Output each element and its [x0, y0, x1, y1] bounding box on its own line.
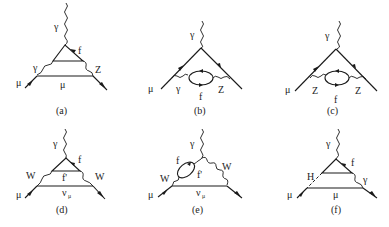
label-w: W [160, 173, 170, 184]
diagram-c: γ μ Z f Z (c) [285, 21, 377, 117]
label-f: f [334, 94, 338, 105]
photon-line [37, 61, 53, 75]
diagram-e: γ f f' W W ν μ μ (e) [148, 129, 242, 216]
label-nu: ν [196, 187, 201, 198]
label-nu: ν [62, 187, 67, 198]
label-z: Z [95, 64, 101, 75]
diagram-a: γ f γ Z μ μ (a) [16, 3, 107, 117]
caption-a: (a) [56, 105, 67, 117]
label-z: Z [355, 85, 361, 96]
arrow-icon [217, 63, 221, 68]
label-mu: μ [287, 189, 292, 200]
photon-line [352, 173, 363, 188]
caption-e: (e) [192, 204, 203, 216]
w-boson-line [80, 171, 93, 186]
label-gamma: γ [32, 62, 38, 73]
photon-line [201, 129, 204, 158]
w-boson-line [172, 177, 179, 186]
label-f: f [78, 154, 82, 165]
z-boson-line [83, 61, 93, 76]
label-nu-subscript: μ [202, 193, 205, 199]
label-w: W [95, 171, 105, 182]
label-mu: μ [60, 79, 65, 90]
arrow-icon [199, 83, 203, 87]
photon-line [337, 21, 341, 49]
label-f: f [176, 155, 180, 166]
label-gamma: γ [189, 29, 195, 40]
label-mu: μ [148, 83, 153, 94]
caption-b: (b) [194, 105, 206, 117]
z-boson-line [213, 76, 230, 79]
label-gamma: γ [325, 138, 331, 149]
photon-line [65, 3, 68, 45]
label-w: W [222, 161, 232, 172]
label-mu: μ [16, 189, 21, 200]
label-f-prime: f' [197, 169, 202, 180]
diagram-d: γ f f' W W ν μ μ (d) [16, 129, 105, 216]
label-gamma: γ [175, 83, 181, 94]
feynman-diagram-figure: γ f γ Z μ μ (a) γ μ γ f Z (b) [0, 0, 389, 227]
arrow-icon [162, 189, 168, 195]
label-nu-subscript: μ [68, 193, 71, 199]
arrow-icon [299, 191, 304, 197]
photon-line [201, 21, 204, 48]
label-gamma: γ [189, 138, 195, 149]
label-z: Z [218, 84, 224, 95]
label-gamma: γ [362, 174, 368, 185]
w-boson-line [37, 171, 52, 186]
fermion-loop [189, 71, 213, 85]
label-gamma: γ [52, 138, 58, 149]
fermion-loop-triangle [52, 158, 80, 171]
label-mu: μ [333, 189, 338, 200]
label-mu: μ [16, 77, 21, 88]
arrow-icon [199, 69, 203, 73]
fermion-loop-triangle [322, 159, 352, 173]
diagram-f: γ f H γ μ μ (f) [287, 129, 377, 216]
photon-line [336, 129, 340, 159]
caption-d: (d) [56, 204, 68, 216]
label-f-prime: f' [62, 172, 67, 183]
label-h: H [307, 171, 314, 182]
label-mu: μ [148, 189, 153, 200]
label-z: Z [312, 85, 318, 96]
diagram-b: γ μ γ f Z (b) [148, 21, 242, 117]
fermion-loop [325, 71, 349, 85]
caption-c: (c) [327, 105, 338, 117]
z-boson-line [310, 74, 326, 78]
arrow-icon [335, 69, 339, 73]
label-gamma: γ [324, 30, 330, 41]
arrow-icon [369, 191, 376, 197]
arrow-icon [335, 83, 339, 87]
label-gamma: γ [53, 21, 59, 32]
label-mu: μ [285, 84, 290, 95]
caption-f: (f) [331, 204, 341, 216]
photon-line [64, 129, 67, 158]
label-f: f [199, 91, 203, 102]
muon-line [201, 48, 242, 89]
label-f: f [78, 45, 82, 56]
w-boson-line [194, 158, 202, 164]
label-w: W [26, 170, 36, 181]
label-f: f [351, 157, 355, 168]
